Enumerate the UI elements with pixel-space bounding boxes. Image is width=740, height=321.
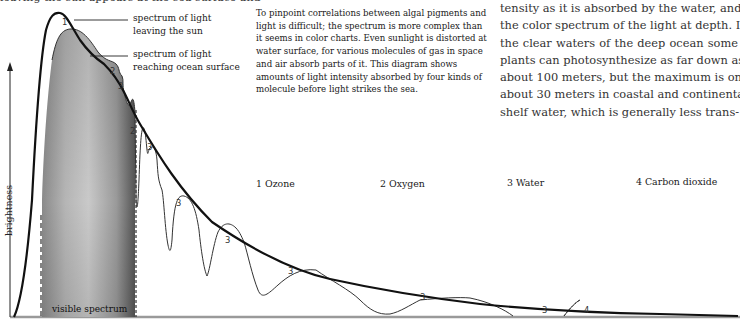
sun-spectrum-label-2: leaving the sun xyxy=(133,26,203,36)
body-text-line: tensity as it is absorbed by the water, … xyxy=(500,0,738,17)
body-text-line: the color spectrum of the light at depth… xyxy=(500,17,738,34)
marker-oxygen: 2 xyxy=(110,66,115,76)
body-text-line: shelf water, which is generally less tra… xyxy=(500,104,738,121)
body-text-column: tensity as it is absorbed by the water, … xyxy=(500,0,738,121)
marker-carbon-dioxide: 4 xyxy=(584,305,589,315)
legend-water: 3 Water xyxy=(507,177,544,188)
marker-oxygen: 2 xyxy=(130,126,135,136)
y-axis-label: brightness xyxy=(3,185,14,236)
legend-carbon-dioxide: 4 Carbon dioxide xyxy=(636,176,717,187)
diagram-caption: To pinpoint correlations between algal p… xyxy=(256,7,488,96)
body-text-line: about 100 meters, but the maximum is onl… xyxy=(500,69,738,86)
marker-water: 3 xyxy=(288,266,293,276)
visible-spectrum-label: visible spectrum xyxy=(52,304,127,314)
legend-ozone: 1 Ozone xyxy=(256,178,295,189)
marker-ozone: 1 xyxy=(62,17,67,27)
body-text-line: about 30 meters in coastal and continent… xyxy=(500,86,738,103)
marker-water: 3 xyxy=(176,198,181,208)
body-text-line: plants can photosynthesize as far down a… xyxy=(500,52,738,69)
surface-spectrum-label-1: spectrum of light xyxy=(133,49,211,59)
legend-oxygen: 2 Oxygen xyxy=(380,178,425,189)
marker-water: 3 xyxy=(542,305,547,315)
surface-spectrum-label-2: reaching ocean surface xyxy=(133,62,240,72)
sun-spectrum-label-1: spectrum of light xyxy=(133,13,211,23)
marker-water: 3 xyxy=(147,142,152,152)
marker-water: 3 xyxy=(118,81,123,91)
marker-water: 3 xyxy=(420,292,425,302)
marker-water: 3 xyxy=(225,235,230,245)
body-text-line: the clear waters of the deep ocean some xyxy=(500,35,738,52)
